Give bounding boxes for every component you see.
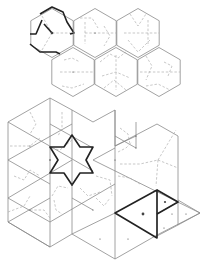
- hexagon-6: [138, 48, 180, 97]
- hexagon-4: [52, 48, 94, 97]
- top-hexagon-grid: [30, 7, 180, 97]
- bold-triangle-large: [115, 190, 157, 238]
- hexagon-2: [74, 9, 116, 58]
- hexagon-1: [30, 7, 74, 58]
- hexagon-5: [95, 48, 137, 97]
- bottom-triangle-tiling: [8, 98, 200, 259]
- hexagon-3: [117, 9, 159, 58]
- puzzle-diagram: [0, 0, 203, 269]
